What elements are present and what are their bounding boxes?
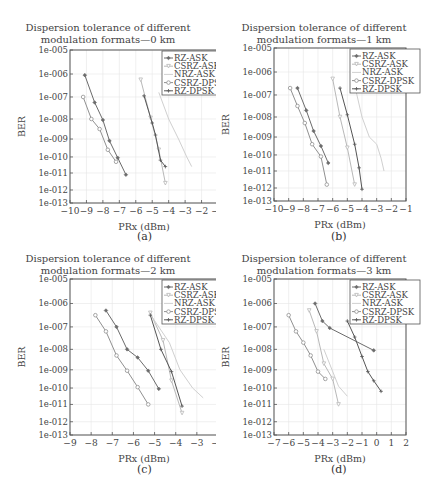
y-tick-label: 1e-007 <box>38 92 68 102</box>
y-tick-label: 1e-007 <box>242 322 272 332</box>
x-tick-label: −4 <box>311 438 325 448</box>
legend: RZ-ASKCSRZ-ASKNRZ-ASKCSRZ-DPSKRZ-DPSK <box>350 280 420 325</box>
series-csrz-ask <box>307 309 340 407</box>
y-tick-label: 1e-005 <box>38 45 68 55</box>
x-tick-label: −2 <box>195 206 208 216</box>
x-tick-label: −2 <box>341 438 354 448</box>
y-tick-label: 1e-010 <box>38 383 68 393</box>
x-axis: −9−8−7−6−5−4−3−2 <box>63 432 216 448</box>
x-tick-label: −3 <box>178 206 192 216</box>
x-tick-label: −8 <box>85 438 99 448</box>
legend: RZ-ASKCSRZ-ASKNRZ-ASKCSRZ-DPSKRZ-DPSK <box>162 51 216 96</box>
x-tick-label: −9 <box>63 438 77 448</box>
x-tick-label: −3 <box>190 438 204 448</box>
series-rz-ask <box>296 86 330 164</box>
series-csrz-dpsk <box>94 313 150 406</box>
y-tick-label: 1e-007 <box>242 90 272 100</box>
series-nrz-ask <box>152 318 203 398</box>
x-tick-label: −7 <box>113 206 127 216</box>
x-tick-label: −6 <box>129 206 143 216</box>
y-tick-label: 1e-008 <box>242 344 272 354</box>
series-rz-dpsk <box>149 313 184 408</box>
y-tick-label: 1e-011 <box>242 166 272 176</box>
x-tick-label: −2 <box>385 204 398 214</box>
y-tick-label: 1e-011 <box>38 399 68 409</box>
y-tick-label: 1e-012 <box>38 417 68 427</box>
series-rz-ask <box>83 73 128 176</box>
x-tick-label: −7 <box>106 438 120 448</box>
chart-caption-b: (b) <box>216 230 432 243</box>
x-tick-label: −8 <box>96 206 110 216</box>
y-tick-label: 1e-012 <box>38 185 68 195</box>
x-axis: −10−9−8−7−6−5−4−3−2−1 <box>265 198 413 214</box>
y-tick-label: 1e-012 <box>242 417 272 427</box>
x-tick-label: −4 <box>162 206 176 216</box>
y-tick-label: 1e-010 <box>38 152 68 162</box>
chart-caption-d: (d) <box>216 463 432 476</box>
legend: RZ-ASKCSRZ-ASKNRZ-ASKCSRZ-DPSKRZ-DPSK <box>162 280 216 325</box>
chart-caption-a: (a) <box>0 230 216 243</box>
y-tick-label: 1e-010 <box>242 150 272 160</box>
x-tick-label: −1 <box>355 438 368 448</box>
y-tick-label: 1e-008 <box>242 112 272 122</box>
y-axis: 1e-0051e-0061e-0071e-0081e-0091e-0101e-0… <box>38 45 73 208</box>
x-tick-label: −6 <box>326 204 340 214</box>
series-rz-dpsk <box>338 86 364 191</box>
x-tick-label: −5 <box>297 438 311 448</box>
y-tick-label: 1e-006 <box>38 298 68 308</box>
legend: RZ-ASKCSRZ-ASKNRZ-ASKCSRZ-DPSKRZ-DPSK <box>350 49 420 94</box>
series-nrz-ask <box>324 349 347 396</box>
x-axis-label: PRx (dBm) <box>314 219 365 230</box>
y-tick-label: 1e-005 <box>242 43 272 53</box>
y-tick-label: 1e-012 <box>242 183 272 193</box>
series-csrz-ask <box>331 77 357 186</box>
x-tick-label: −9 <box>282 204 296 214</box>
x-tick-label: −1 <box>399 204 412 214</box>
y-axis-label: BER <box>16 115 27 137</box>
y-tick-label: 1e-007 <box>38 322 68 332</box>
y-tick-label: 1e-011 <box>242 399 272 409</box>
y-axis: 1e-0051e-0061e-0071e-0081e-0091e-0101e-0… <box>242 43 277 206</box>
y-tick-label: 1e-006 <box>242 298 272 308</box>
x-tick-label: −8 <box>297 204 311 214</box>
x-tick-label: −5 <box>148 438 162 448</box>
x-tick-label: −10 <box>61 206 80 216</box>
chart-plot-b: 1e-0051e-0061e-0071e-0081e-0091e-0101e-0… <box>216 0 432 250</box>
x-tick-label: −5 <box>146 206 160 216</box>
y-tick-label: 1e-010 <box>242 383 272 393</box>
x-tick-label: −4 <box>355 204 369 214</box>
chart-panel-d: Dispersion tolerance of different modula… <box>216 250 432 500</box>
y-axis-label: BER <box>220 346 231 368</box>
x-tick-label: −7 <box>267 438 281 448</box>
y-tick-label: 1e-011 <box>38 168 68 178</box>
x-tick-label: −9 <box>80 206 94 216</box>
y-tick-label: 1e-009 <box>242 132 272 142</box>
y-tick-label: 1e-005 <box>242 274 272 284</box>
y-tick-label: 1e-006 <box>38 69 68 79</box>
y-tick-label: 1e-009 <box>38 134 68 144</box>
legend-item: RZ-DPSK <box>174 86 215 96</box>
legend-item: RZ-DPSK <box>362 315 403 325</box>
chart-panel-b: Dispersion tolerance of different modula… <box>216 0 432 250</box>
y-tick-label: 1e-008 <box>38 114 68 124</box>
series-csrz-dpsk <box>288 86 328 186</box>
y-tick-label: 1e-009 <box>38 365 68 375</box>
series-rz-dpsk <box>346 319 383 393</box>
y-axis-label: BER <box>16 346 27 368</box>
series-nrz-ask <box>159 92 192 166</box>
x-tick-label: −3 <box>370 204 384 214</box>
y-tick-label: 1e-006 <box>242 67 272 77</box>
legend-item: RZ-DPSK <box>174 315 215 325</box>
y-axis-label: BER <box>220 113 231 135</box>
x-tick-label: −4 <box>169 438 183 448</box>
legend-item: RZ-DPSK <box>362 84 403 94</box>
chart-plot-a: 1e-0051e-0061e-0071e-0081e-0091e-0101e-0… <box>0 0 216 250</box>
y-axis: 1e-0051e-0061e-0071e-0081e-0091e-0101e-0… <box>242 274 277 440</box>
series-csrz-dpsk <box>81 95 117 163</box>
x-tick-label: −5 <box>341 204 355 214</box>
x-tick-label: 2 <box>403 438 409 448</box>
y-axis: 1e-0051e-0061e-0071e-0081e-0091e-0101e-0… <box>38 274 73 440</box>
x-tick-label: 1 <box>388 438 394 448</box>
x-axis: −7−6−5−4−3−2−1012 <box>267 432 409 448</box>
chart-panel-c: Dispersion tolerance of different modula… <box>0 250 216 500</box>
